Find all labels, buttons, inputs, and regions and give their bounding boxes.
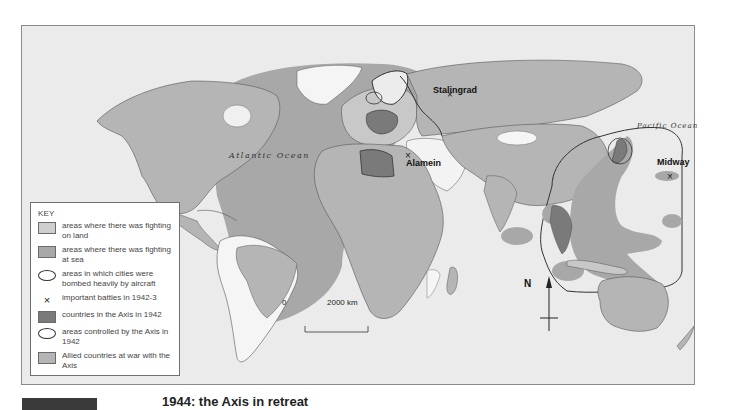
- legend-item-fighting-land: areas where there was fighting on land: [38, 221, 173, 241]
- midway-label: Midway: [657, 157, 690, 167]
- cross-icon: ×: [38, 294, 56, 306]
- legend-item-allied-countries: Allied countries at war with the Axis: [38, 351, 173, 371]
- legend-item-axis-controlled: areas controlled by the Axis in 1942: [38, 327, 173, 347]
- ring-icon: [38, 270, 56, 281]
- medium-swatch-icon: [38, 246, 56, 258]
- north-label: N: [524, 278, 531, 289]
- stalingrad-label: Stalingrad: [433, 85, 477, 95]
- legend-item-fighting-sea: areas where there was fighting at sea: [38, 245, 173, 265]
- caption-bar: [22, 398, 97, 410]
- dark-swatch-icon: [38, 311, 56, 323]
- australia: [598, 277, 668, 332]
- india: [484, 176, 517, 232]
- legend-item-battles: × important battles in 1942-3: [38, 293, 173, 306]
- atlantic-ocean-label: Atlantic Ocean: [229, 151, 310, 160]
- legend-title: KEY: [38, 209, 173, 218]
- legend-item-bombed-cities: areas in which cities were bombed heavil…: [38, 269, 173, 289]
- scale-bar: [305, 326, 368, 332]
- midway-battle-marker: ×: [667, 171, 673, 182]
- allied-swatch-icon: [38, 352, 56, 364]
- alamein-label: Alamein: [406, 158, 441, 168]
- scale-start-label: 0: [282, 298, 286, 307]
- legend-item-axis-countries: countries in the Axis in 1942: [38, 310, 173, 323]
- north-arrow-icon: [540, 276, 558, 331]
- ring-icon: [38, 328, 56, 339]
- pacific-ocean-label: Pacific Ocean: [637, 122, 698, 130]
- map-legend: KEY areas where there was fighting on la…: [30, 202, 180, 376]
- scale-end-label: 2000 km: [327, 298, 358, 307]
- light-swatch-icon: [38, 222, 56, 234]
- southeast-asia: [550, 206, 572, 254]
- libya-axis: [360, 150, 394, 177]
- caption-text: 1944: the Axis in retreat: [162, 394, 308, 409]
